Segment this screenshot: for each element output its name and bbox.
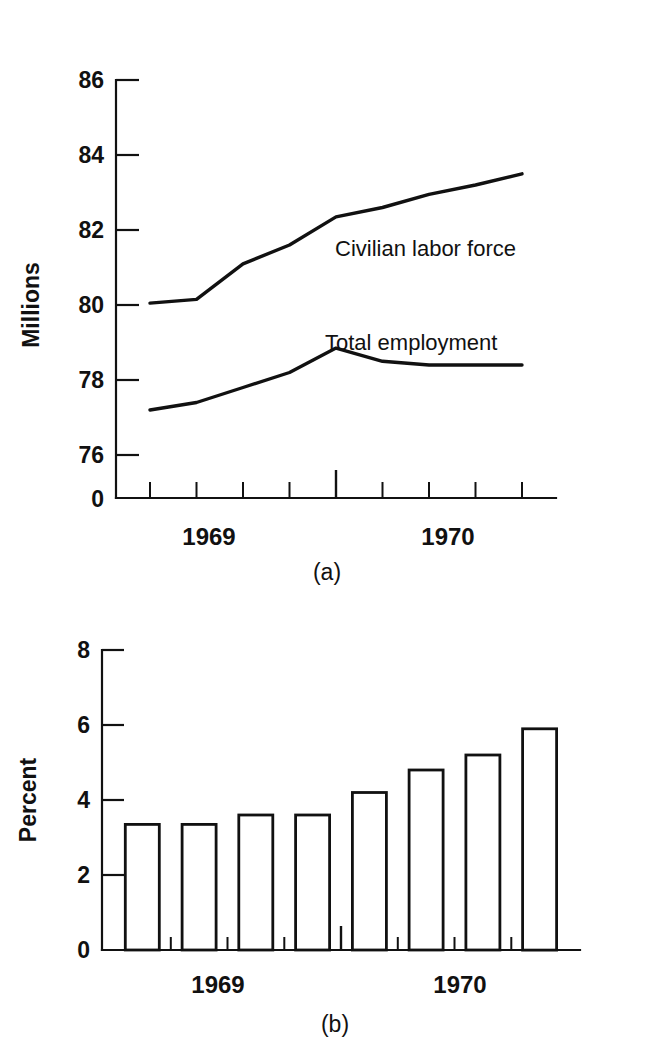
panel-a-ytick-zero: 0: [91, 486, 104, 512]
panel-a-ytick-label: 86: [78, 67, 104, 93]
panel-b-bar-chart: 86420 Percent 1969 1970 (b): [0, 595, 659, 1044]
panel-b-ytick-label: 6: [77, 712, 90, 738]
panel-a-ytick-label: 84: [78, 142, 104, 168]
panel-b-ytick-label: 8: [77, 637, 90, 663]
panel-b-ytick-labels: 86420: [77, 637, 90, 963]
total-employment-label: Total employment: [325, 330, 497, 355]
bar: [239, 815, 273, 950]
bar: [523, 729, 557, 950]
panel-b-bars: [125, 729, 556, 950]
panel-b-xtick-1969: 1969: [191, 971, 244, 998]
panel-b-ytick-label: 0: [77, 937, 90, 963]
bar: [125, 824, 159, 950]
total-employment-line: [150, 348, 522, 410]
panel-a-ytick-label: 76: [78, 442, 104, 468]
panel-a-ytick-label: 78: [78, 367, 104, 393]
panel-a-caption: (a): [313, 559, 341, 585]
panel-a-svg: 8684828078760 Civilian labor force Total…: [0, 0, 659, 595]
panel-a-ytick-label: 80: [78, 292, 104, 318]
panel-b-svg: 86420 Percent 1969 1970 (b): [0, 595, 659, 1044]
panel-b-y-axis-title: Percent: [15, 757, 41, 842]
panel-b-ytick-label: 4: [77, 787, 90, 813]
panel-b-caption: (b): [321, 1011, 349, 1037]
panel-a-y-axis-title: Millions: [18, 262, 44, 348]
bar: [182, 824, 216, 950]
bar: [466, 755, 500, 950]
panel-b-xtick-1970: 1970: [433, 971, 486, 998]
bar: [352, 793, 386, 951]
bar: [409, 770, 443, 950]
panel-b-ytick-label: 2: [77, 862, 90, 888]
panel-a-line-chart: 8684828078760 Civilian labor force Total…: [0, 0, 659, 595]
panel-b-ytick-marks: [102, 650, 124, 875]
figure-page: 8684828078760 Civilian labor force Total…: [0, 0, 659, 1044]
panel-a-xtick-1969: 1969: [182, 523, 235, 550]
panel-a-ytick-label: 82: [78, 217, 104, 243]
panel-a-xtick-1970: 1970: [421, 523, 474, 550]
panel-a-ytick-labels: 8684828078760: [78, 67, 104, 512]
panel-a-ytick-marks: [116, 80, 139, 455]
bar: [296, 815, 330, 950]
panel-a-xtick-marks: [150, 470, 522, 498]
civilian-labor-force-label: Civilian labor force: [335, 236, 516, 261]
